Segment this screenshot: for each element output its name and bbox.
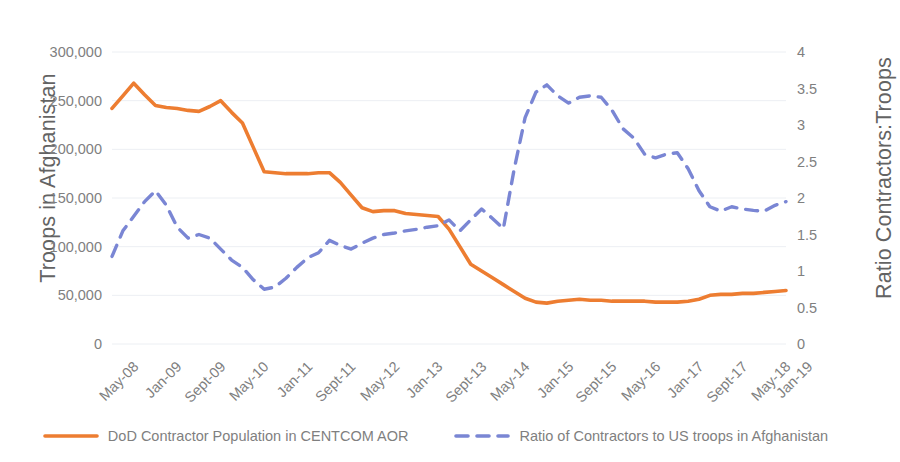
legend-item[interactable]: Ratio of Contractors to US troops in Afg… (454, 428, 828, 444)
series-line-1 (112, 85, 786, 289)
legend-swatch-dashed-icon (454, 430, 510, 442)
legend-swatch-solid-icon (43, 430, 99, 442)
legend-item[interactable]: DoD Contractor Population in CENTCOM AOR (43, 428, 409, 444)
chart-legend: DoD Contractor Population in CENTCOM AOR… (0, 424, 871, 448)
y-axis-right-title: Ratio Contractors:Troops (868, 8, 900, 348)
legend-label: DoD Contractor Population in CENTCOM AOR (108, 428, 409, 444)
legend-label: Ratio of Contractors to US troops in Afg… (519, 428, 828, 444)
series-line-0 (112, 83, 786, 303)
